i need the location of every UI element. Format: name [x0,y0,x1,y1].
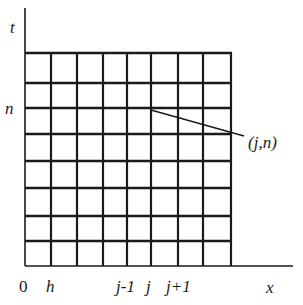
diagram-canvas: t n (j,n) 0 h j-1 j j+1 x [0,0,303,305]
j-plus-1-label: j+1 [164,277,191,296]
origin-label: 0 [19,277,28,296]
j-minus-1-label: j-1 [114,277,135,296]
h-label: h [46,277,55,296]
grid-vertical-lines [51,53,231,266]
point-label: (j,n) [248,133,277,152]
n-row-label: n [5,99,14,118]
j-label: j [144,277,151,296]
finite-difference-grid-diagram: t n (j,n) 0 h j-1 j j+1 x [0,0,303,305]
x-axis-label: x [265,278,274,297]
t-axis-label: t [10,18,16,37]
grid-horizontal-lines [25,53,232,241]
